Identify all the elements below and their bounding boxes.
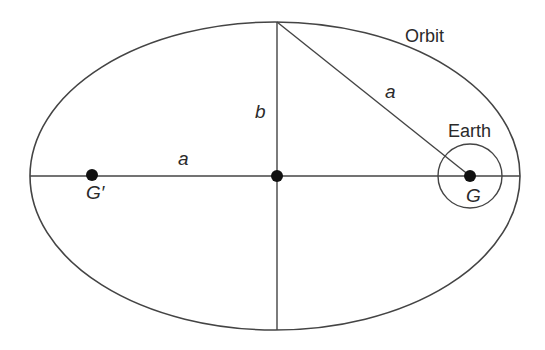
focus-g-label: G [466, 185, 481, 206]
orbit-diagram: Orbit Earth a a b G G′ [0, 0, 545, 350]
semi-minor-label: b [255, 101, 266, 122]
focus-g-prime-dot [86, 169, 98, 181]
center-dot [271, 170, 283, 182]
earth-label: Earth [448, 121, 491, 141]
semi-major-label-top: a [385, 81, 396, 102]
orbit-label: Orbit [405, 26, 444, 46]
semi-major-label-left: a [178, 148, 189, 169]
focus-g-dot [464, 170, 476, 182]
focus-g-prime-label: G′ [86, 182, 106, 203]
